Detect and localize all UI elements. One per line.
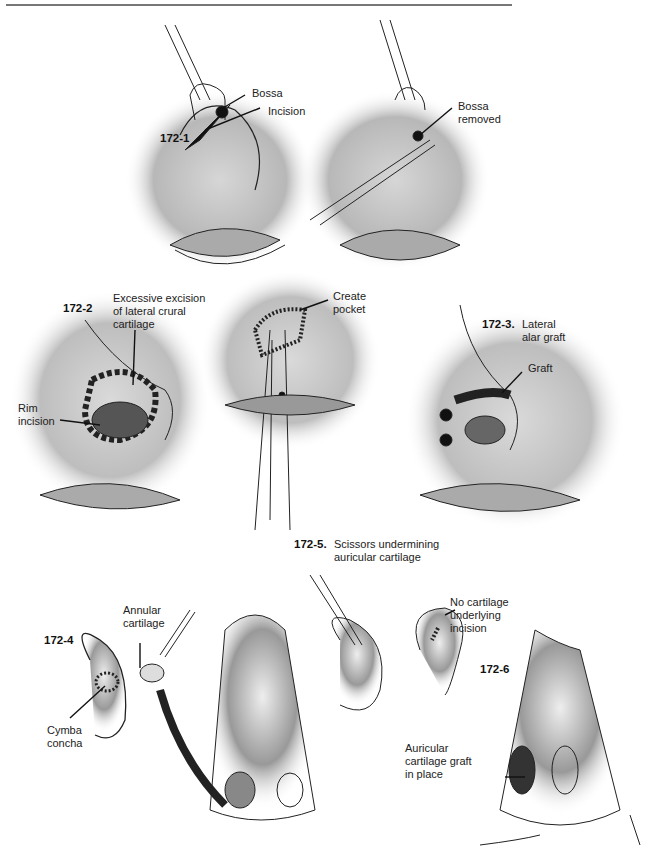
label-create-pocket: Create pocket: [333, 290, 366, 316]
label-incision: Incision: [268, 105, 305, 118]
nose-illustration-3: [405, 305, 625, 530]
caption-lateral-alar-graft: Lateral alar graft: [522, 318, 565, 344]
label-bossa-removed: Bossa removed: [458, 100, 501, 126]
label-bossa: Bossa: [252, 87, 283, 100]
label-graft: Graft: [528, 362, 552, 375]
nose-illustration-1: [125, 25, 315, 270]
label-auricular-graft: Auricular cartilage graft in place: [405, 742, 472, 781]
label-no-cartilage: No cartilage underlying incision: [450, 596, 509, 635]
surgical-illustrations: [0, 0, 662, 861]
nose-illustration-1b: [300, 20, 490, 270]
figure-number-172-3: 172-3.: [482, 318, 515, 330]
label-annular-cartilage: Annular cartilage: [123, 604, 165, 630]
label-cymba-concha: Cymba concha: [47, 724, 82, 750]
nose-illustration-base: [210, 615, 315, 820]
ear-illustration-4: [82, 610, 225, 805]
figure-number-172-4: 172-4: [44, 634, 73, 646]
label-excessive-excision: Excessive excision of lateral crural car…: [113, 292, 205, 331]
figure-number-172-1: 172-1: [160, 132, 189, 144]
caption-scissors-undermining: Scissors undermining auricular cartilage: [334, 538, 439, 564]
figure-number-172-2: 172-2: [63, 302, 92, 314]
label-rim-incision: Rim incision: [18, 402, 55, 428]
figure-number-172-5: 172-5.: [294, 538, 327, 550]
figure-number-172-6: 172-6: [480, 663, 509, 675]
ear-illustration-5: [310, 575, 382, 710]
